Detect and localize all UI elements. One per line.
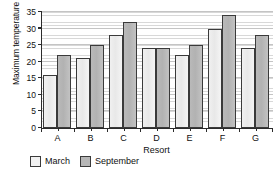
x-tick-label-A: A	[47, 133, 69, 143]
x-tick-label-B: B	[80, 133, 102, 143]
y-tick-mark	[38, 27, 42, 28]
bar-F-march	[208, 29, 222, 128]
bar-C-september	[123, 22, 137, 128]
x-tick-mark	[223, 128, 224, 131]
x-tick-mark	[107, 128, 108, 132]
y-tick-mark	[38, 77, 42, 78]
bar-F-september	[222, 15, 236, 128]
x-tick-label-G: G	[245, 133, 267, 143]
y-tick-label: 10	[16, 91, 36, 99]
legend-swatch-march	[30, 156, 41, 167]
bar-C-march	[109, 35, 123, 128]
bar-B-march	[76, 58, 90, 128]
x-tick-mark	[157, 128, 158, 131]
bar-G-march	[241, 48, 255, 128]
bar-E-march	[175, 55, 189, 128]
y-tick-label: 25	[16, 41, 36, 49]
x-tick-mark	[140, 128, 141, 132]
bar-G-september	[255, 35, 269, 128]
legend-label-september: September	[95, 156, 139, 167]
legend-label-march: March	[45, 156, 70, 167]
x-tick-label-F: F	[212, 133, 234, 143]
y-tick-mark	[38, 61, 42, 62]
x-tick-mark	[74, 128, 75, 132]
legend-item-march: March	[30, 156, 70, 167]
x-tick-mark	[173, 128, 174, 132]
x-tick-mark	[58, 128, 59, 131]
y-tick-label: 35	[16, 8, 36, 16]
x-tick-label-D: D	[146, 133, 168, 143]
plot-area: 05101520253035	[41, 12, 273, 129]
x-tick-label-C: C	[113, 133, 135, 143]
y-tick-mark	[38, 11, 42, 12]
bar-A-september	[57, 55, 71, 128]
y-tick-label: 20	[16, 58, 36, 66]
x-tick-mark	[124, 128, 125, 131]
bar-D-september	[156, 48, 170, 128]
bar-D-march	[142, 48, 156, 128]
x-tick-mark	[190, 128, 191, 131]
bar-B-september	[90, 45, 104, 128]
bar-A-march	[43, 75, 57, 128]
y-tick-mark	[38, 94, 42, 95]
x-tick-mark	[41, 128, 42, 132]
y-tick-mark	[38, 110, 42, 111]
y-tick-label: 0	[16, 124, 36, 132]
x-tick-mark	[272, 128, 273, 132]
bar-E-september	[189, 45, 203, 128]
chart-legend: March September	[30, 156, 144, 167]
y-tick-label: 15	[16, 74, 36, 82]
y-tick-label: 5	[16, 107, 36, 115]
y-tick-mark	[38, 44, 42, 45]
x-tick-mark	[239, 128, 240, 132]
y-tick-label: 30	[16, 25, 36, 33]
x-tick-mark	[91, 128, 92, 131]
x-tick-label-E: E	[179, 133, 201, 143]
legend-swatch-september	[80, 156, 91, 167]
bars-container	[42, 12, 273, 128]
bar-chart: Maximum temperature (°C) 05101520253035 …	[0, 0, 279, 177]
x-tick-mark	[206, 128, 207, 132]
x-axis-title: Resort	[41, 145, 272, 155]
x-tick-mark	[256, 128, 257, 131]
legend-item-september: September	[80, 156, 139, 167]
